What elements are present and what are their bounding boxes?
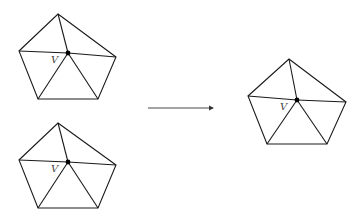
spoke-edge <box>68 162 98 208</box>
pentagon-outline <box>19 123 116 208</box>
pentagon-outline <box>19 14 116 99</box>
vertex-label: V <box>51 54 60 65</box>
spoke-edge <box>68 162 116 165</box>
pentagon-bottom-left: V <box>19 123 116 208</box>
vertex-label: V <box>280 101 289 112</box>
spoke-edge <box>248 96 297 100</box>
vertex-label: V <box>51 163 60 174</box>
spoke-edge <box>289 59 297 100</box>
spoke-edge <box>19 160 68 162</box>
vertex-dot <box>295 98 300 103</box>
spoke-edge <box>297 100 346 102</box>
pentagons-group: VVV <box>19 14 346 208</box>
pentagon-top-left: V <box>19 14 116 99</box>
spoke-edge <box>68 53 98 99</box>
pentagon-right: V <box>248 59 346 144</box>
vertex-dot <box>66 160 71 165</box>
spoke-edge <box>68 53 116 57</box>
spoke-edge <box>19 51 68 53</box>
vertex-dot <box>66 51 71 56</box>
diagram-canvas: VVV <box>0 0 362 224</box>
spoke-edge <box>297 100 327 144</box>
